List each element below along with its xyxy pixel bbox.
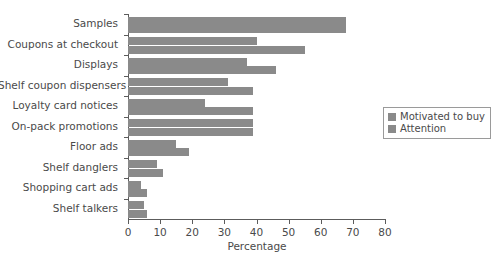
bar-samples-attention bbox=[128, 25, 346, 33]
y-axis-label-on-pack-promotions: On-pack promotions bbox=[0, 121, 118, 132]
legend-swatch-motivated-to-buy bbox=[388, 113, 396, 121]
x-axis-tick-label-0: 0 bbox=[113, 226, 143, 238]
y-axis-label-shelf-coupon-dispensers: Shelf coupon dispensers bbox=[0, 80, 118, 91]
bar-loyalty-card-notices-motivated-to-buy bbox=[128, 99, 205, 107]
x-axis-tick-40 bbox=[257, 220, 258, 224]
chart-legend: Motivated to buy Attention bbox=[383, 107, 491, 139]
y-axis-label-floor-ads: Floor ads bbox=[0, 141, 118, 152]
x-axis-tick-0 bbox=[128, 220, 129, 224]
x-axis-tick-30 bbox=[224, 220, 225, 224]
x-axis-tick-70 bbox=[353, 220, 354, 224]
bar-loyalty-card-notices-attention bbox=[128, 107, 253, 115]
x-axis-tick-label-10: 10 bbox=[145, 226, 175, 238]
figure-caption bbox=[8, 259, 488, 265]
legend-label-motivated-to-buy: Motivated to buy bbox=[400, 111, 485, 123]
y-axis-category-labels: SamplesCoupons at checkoutDisplaysShelf … bbox=[0, 14, 124, 219]
bar-floor-ads-attention bbox=[128, 148, 189, 156]
x-axis-tick-label-20: 20 bbox=[177, 226, 207, 238]
x-axis-tick-60 bbox=[321, 220, 322, 224]
x-axis-tick-label-30: 30 bbox=[209, 226, 239, 238]
bar-on-pack-promotions-attention bbox=[128, 128, 253, 136]
x-axis-tick-80 bbox=[385, 220, 386, 224]
legend-swatch-attention bbox=[388, 125, 396, 133]
bar-shopping-cart-ads-motivated-to-buy bbox=[128, 181, 141, 189]
bar-chart: SamplesCoupons at checkoutDisplaysShelf … bbox=[0, 0, 497, 265]
bar-shopping-cart-ads-attention bbox=[128, 189, 147, 197]
y-axis-label-coupons-at-checkout: Coupons at checkout bbox=[0, 39, 118, 50]
y-axis-label-shelf-talkers: Shelf talkers bbox=[0, 203, 118, 214]
x-axis-tick-label-80: 80 bbox=[370, 226, 400, 238]
plot-area bbox=[128, 14, 385, 219]
bar-shelf-coupon-dispensers-attention bbox=[128, 87, 253, 95]
x-axis-tick-10 bbox=[160, 220, 161, 224]
bar-shelf-talkers-motivated-to-buy bbox=[128, 201, 144, 209]
x-axis-tick-label-70: 70 bbox=[338, 226, 368, 238]
y-axis-label-loyalty-card-notices: Loyalty card notices bbox=[0, 100, 118, 111]
bar-coupons-at-checkout-motivated-to-buy bbox=[128, 37, 257, 45]
x-axis-tick-label-50: 50 bbox=[274, 226, 304, 238]
bar-floor-ads-motivated-to-buy bbox=[128, 140, 176, 148]
y-axis-label-shelf-danglers: Shelf danglers bbox=[0, 162, 118, 173]
x-axis-tick-50 bbox=[289, 220, 290, 224]
x-axis-title: Percentage bbox=[128, 240, 386, 252]
bar-on-pack-promotions-motivated-to-buy bbox=[128, 119, 253, 127]
bar-displays-attention bbox=[128, 66, 276, 74]
bar-displays-motivated-to-buy bbox=[128, 58, 247, 66]
y-axis-label-displays: Displays bbox=[0, 59, 118, 70]
bar-samples-motivated-to-buy bbox=[128, 17, 346, 25]
legend-label-attention: Attention bbox=[400, 123, 446, 135]
bar-shelf-danglers-attention bbox=[128, 169, 163, 177]
bar-coupons-at-checkout-attention bbox=[128, 46, 305, 54]
legend-item-attention: Attention bbox=[388, 123, 485, 135]
bar-shelf-coupon-dispensers-motivated-to-buy bbox=[128, 78, 228, 86]
x-axis-tick-label-40: 40 bbox=[242, 226, 272, 238]
bar-shelf-danglers-motivated-to-buy bbox=[128, 160, 157, 168]
y-axis-label-shopping-cart-ads: Shopping cart ads bbox=[0, 182, 118, 193]
x-axis-tick-label-60: 60 bbox=[306, 226, 336, 238]
bar-shelf-talkers-attention bbox=[128, 210, 147, 218]
x-axis-tick-20 bbox=[192, 220, 193, 224]
y-axis-label-samples: Samples bbox=[0, 18, 118, 29]
legend-item-motivated-to-buy: Motivated to buy bbox=[388, 111, 485, 123]
